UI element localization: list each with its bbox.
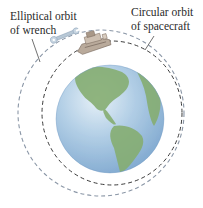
orbit-diagram: Elliptical orbit of wrench Circular orbi… xyxy=(0,0,203,208)
circular-orbit-label-line2: of spacecraft xyxy=(131,19,193,33)
elliptical-orbit-label: Elliptical orbit of wrench xyxy=(10,9,77,37)
elliptical-orbit-label-line2: of wrench xyxy=(10,23,77,37)
circular-orbit-label-line1: Circular orbit xyxy=(131,5,193,19)
elliptical-orbit-label-line1: Elliptical orbit xyxy=(10,9,77,23)
earth-icon xyxy=(56,65,164,173)
spacecraft-label-leader xyxy=(145,36,154,50)
wrench-label-leader xyxy=(32,39,40,62)
circular-orbit-label: Circular orbit of spacecraft xyxy=(131,5,193,33)
